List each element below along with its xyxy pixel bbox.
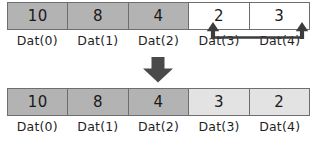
cell-value: 4 bbox=[153, 95, 163, 110]
array-after-labels: Dat(0) Dat(1) Dat(2) Dat(3) Dat(4) bbox=[7, 119, 310, 135]
cell-label: Dat(1) bbox=[68, 33, 129, 49]
array-after: 10 8 4 3 2 bbox=[7, 88, 310, 116]
array-cell: 10 bbox=[8, 89, 68, 115]
down-arrow-icon bbox=[142, 57, 174, 83]
cell-label: Dat(0) bbox=[7, 119, 68, 135]
cell-label: Dat(3) bbox=[189, 33, 250, 49]
cell-label: Dat(2) bbox=[128, 33, 189, 49]
array-cell: 4 bbox=[129, 3, 189, 29]
array-cell: 10 bbox=[8, 3, 68, 29]
cell-label: Dat(4) bbox=[249, 33, 310, 49]
cell-label: Dat(0) bbox=[7, 33, 68, 49]
cell-value: 10 bbox=[28, 9, 48, 24]
figure-canvas: 10 8 4 2 3 Dat(0) Dat(1) Dat(2) Dat(3) D… bbox=[0, 0, 326, 155]
cell-value: 3 bbox=[214, 95, 224, 110]
array-cell: 8 bbox=[68, 89, 128, 115]
cell-label: Dat(3) bbox=[189, 119, 250, 135]
cell-value: 4 bbox=[153, 9, 163, 24]
array-cell: 8 bbox=[68, 3, 128, 29]
array-cell: 2 bbox=[189, 3, 249, 29]
array-cell: 4 bbox=[129, 89, 189, 115]
array-cell: 3 bbox=[189, 89, 249, 115]
cell-label: Dat(2) bbox=[128, 119, 189, 135]
cell-value: 8 bbox=[93, 95, 103, 110]
cell-value: 2 bbox=[214, 9, 224, 24]
array-before: 10 8 4 2 3 bbox=[7, 2, 310, 30]
array-before-labels: Dat(0) Dat(1) Dat(2) Dat(3) Dat(4) bbox=[7, 33, 310, 49]
footer-ghost-text bbox=[9, 146, 309, 155]
cell-value: 8 bbox=[93, 9, 103, 24]
cell-label: Dat(1) bbox=[68, 119, 129, 135]
cell-value: 3 bbox=[274, 9, 284, 24]
array-cell: 3 bbox=[250, 3, 309, 29]
cell-value: 2 bbox=[274, 95, 284, 110]
cell-label: Dat(4) bbox=[249, 119, 310, 135]
cell-value: 10 bbox=[28, 95, 48, 110]
array-cell: 2 bbox=[250, 89, 309, 115]
